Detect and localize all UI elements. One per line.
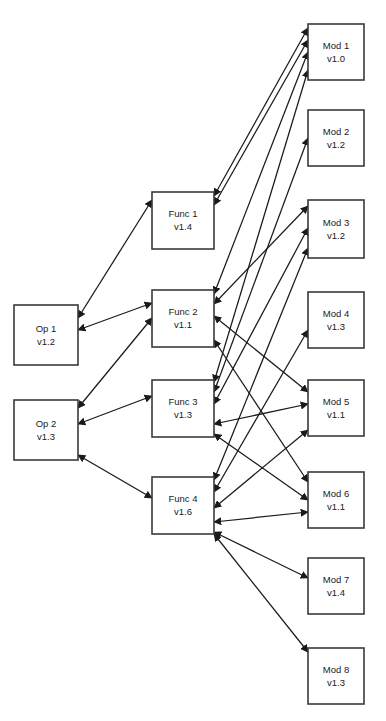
node-box-mod2[interactable] <box>308 110 364 166</box>
node-box-op2[interactable] <box>14 400 78 460</box>
node-mod7[interactable]: Mod 7v1.4 <box>308 558 364 614</box>
edge-op1-to-func1 <box>78 200 152 318</box>
node-mod3[interactable]: Mod 3v1.2 <box>308 200 364 258</box>
node-mod6[interactable]: Mod 6v1.1 <box>308 472 364 528</box>
edge-func4-to-mod7 <box>214 532 308 578</box>
dependency-graph-svg: Op 1v1.2Op 2v1.3Func 1v1.4Func 2v1.1Func… <box>0 0 386 721</box>
node-func1[interactable]: Func 1v1.4 <box>152 192 214 249</box>
node-box-func3[interactable] <box>152 380 214 437</box>
node-mod5[interactable]: Mod 5v1.1 <box>308 380 364 436</box>
node-mod1[interactable]: Mod 1v1.0 <box>308 24 364 80</box>
edge-func4-to-mod8 <box>214 534 308 652</box>
node-box-mod6[interactable] <box>308 472 364 528</box>
node-mod4[interactable]: Mod 4v1.3 <box>308 292 364 348</box>
edge-op2-to-func2 <box>78 318 152 408</box>
edge-func4-to-mod6 <box>214 512 308 522</box>
node-layer: Op 1v1.2Op 2v1.3Func 1v1.4Func 2v1.1Func… <box>14 24 364 704</box>
node-box-mod8[interactable] <box>308 648 364 704</box>
node-box-mod7[interactable] <box>308 558 364 614</box>
edge-func2-to-mod1 <box>214 52 308 294</box>
node-box-op1[interactable] <box>14 305 78 365</box>
node-box-mod1[interactable] <box>308 24 364 80</box>
node-mod8[interactable]: Mod 8v1.3 <box>308 648 364 704</box>
edge-op2-to-func4 <box>78 455 152 498</box>
edge-func1-to-mod1 <box>214 40 308 205</box>
edge-op2-to-func3 <box>78 396 152 424</box>
node-op2[interactable]: Op 2v1.3 <box>14 400 78 460</box>
edge-func4-to-mod3 <box>214 248 308 480</box>
node-func3[interactable]: Func 3v1.3 <box>152 380 214 437</box>
node-op1[interactable]: Op 1v1.2 <box>14 305 78 365</box>
node-box-func2[interactable] <box>152 290 214 347</box>
node-box-mod5[interactable] <box>308 380 364 436</box>
diagram-canvas: Op 1v1.2Op 2v1.3Func 1v1.4Func 2v1.1Func… <box>0 0 386 721</box>
edge-op1-to-func2 <box>78 303 152 330</box>
edge-func3-to-mod1 <box>214 70 308 382</box>
edge-func3-to-mod5 <box>214 404 308 424</box>
node-mod2[interactable]: Mod 2v1.2 <box>308 110 364 166</box>
node-box-func1[interactable] <box>152 192 214 249</box>
edge-func4-to-mod5 <box>214 430 308 508</box>
node-func4[interactable]: Func 4v1.6 <box>152 477 214 534</box>
node-box-mod3[interactable] <box>308 200 364 258</box>
edge-func1-to-mod1 <box>214 28 308 196</box>
node-box-mod4[interactable] <box>308 292 364 348</box>
node-func2[interactable]: Func 2v1.1 <box>152 290 214 347</box>
node-box-func4[interactable] <box>152 477 214 534</box>
